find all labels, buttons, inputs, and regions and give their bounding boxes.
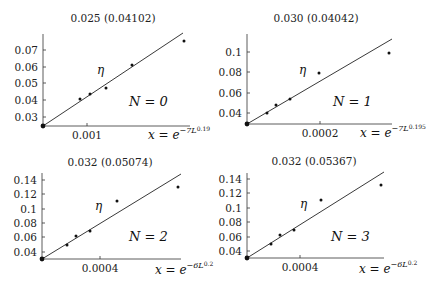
x-axis-label: x = e−7L0.195 — [360, 123, 426, 140]
panel-title: 0.032 (0.05367) — [271, 155, 356, 167]
y-tick-label: 0.12 — [14, 188, 37, 200]
x-tick-label: 0.001 — [72, 129, 102, 141]
y-ticks — [43, 50, 87, 126]
data-points — [41, 40, 186, 129]
y-tick-label: 0.08 — [14, 217, 37, 229]
y-tick-label: 0.1 — [225, 202, 242, 214]
panel-n2: 0.032 (0.05074) 0.14 0.12 0.1 0.08 0.06 … — [14, 156, 214, 277]
panel-title: 0.030 (0.04042) — [273, 12, 358, 24]
panel-n1: 0.030 (0.04042) 0.1 0.08 0.06 0.04 0.000… — [219, 12, 426, 140]
y-tick-label: 0.04 — [219, 245, 243, 257]
y-tick-label: 0.12 — [219, 187, 242, 199]
panel-title: 0.032 (0.05074) — [67, 156, 152, 168]
y-tick-label: 0.04 — [14, 246, 38, 258]
y-tick-label: 0.07 — [15, 44, 38, 56]
x-tick-label: 0.0004 — [282, 261, 319, 273]
eta-label: η — [95, 199, 103, 213]
y-tick-label: 0.06 — [15, 61, 39, 73]
y-tick-label: 0.08 — [219, 66, 242, 78]
figure: 0.025 (0.04102) 0.07 0.06 0.05 0.04 0.03… — [0, 0, 440, 289]
data-points — [245, 184, 383, 261]
fit-line — [247, 39, 392, 124]
n-label: N = 2 — [128, 229, 168, 244]
data-points — [40, 186, 180, 262]
y-tick-label: 0.05 — [15, 77, 38, 89]
n-label: N = 3 — [330, 229, 370, 244]
y-tick-label: 0.06 — [219, 87, 243, 99]
y-ticks — [42, 180, 100, 259]
x-tick-label: 0.0002 — [302, 127, 339, 139]
eta-label: η — [299, 63, 307, 77]
fit-line — [42, 174, 181, 259]
x-tick-label: 0.0004 — [82, 262, 119, 274]
y-tick-label: 0.06 — [219, 231, 243, 243]
y-tick-label: 0.14 — [219, 173, 243, 185]
x-axis-label: x = e−6L0.2 — [155, 260, 213, 277]
y-tick-label: 0.04 — [15, 94, 39, 106]
x-axis-label: x = e−7L0.19 — [148, 125, 210, 142]
eta-label: η — [97, 63, 105, 77]
panel-n0: 0.025 (0.04102) 0.07 0.06 0.05 0.04 0.03… — [15, 12, 211, 142]
x-axis-label: x = e−6L0.2 — [359, 259, 417, 276]
y-tick-label: 0.04 — [219, 107, 243, 119]
y-tick-label: 0.08 — [219, 216, 242, 228]
y-ticks — [247, 179, 300, 258]
y-tick-label: 0.03 — [15, 111, 38, 123]
fit-line — [247, 172, 384, 258]
y-tick-label: 0.1 — [20, 203, 37, 215]
y-tick-label: 0.1 — [225, 46, 242, 58]
y-tick-label: 0.06 — [14, 231, 38, 243]
panel-n3: 0.032 (0.05367) 0.14 0.12 0.1 0.08 0.06 … — [219, 155, 418, 276]
n-label: N = 1 — [332, 94, 372, 109]
y-tick-label: 0.14 — [14, 174, 38, 186]
eta-label: η — [300, 197, 308, 211]
data-points — [245, 52, 391, 127]
fit-line — [43, 33, 183, 126]
n-label: N = 0 — [128, 94, 168, 109]
panel-title: 0.025 (0.04102) — [70, 12, 155, 24]
